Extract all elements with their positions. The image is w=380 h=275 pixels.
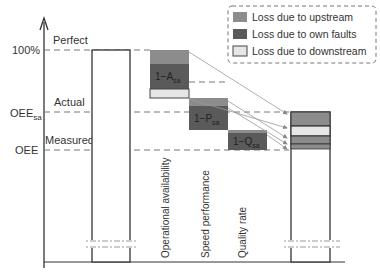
perfect-bar <box>86 50 136 262</box>
loss-block-availability: 1−Asa <box>150 50 189 98</box>
category-performance: Speed performance <box>200 170 211 258</box>
legend-item-own-faults: Loss due to own faults <box>233 28 356 40</box>
tick-oee-sa: OEEsa <box>10 107 42 122</box>
oee-diagram: 100% OEEsa OEE Perfect Actual Measured 1… <box>0 0 380 275</box>
legend-item-downstream: Loss due to downstream <box>233 45 367 57</box>
y-tick-labels: 100% OEEsa OEE <box>10 44 42 156</box>
region-labels: Perfect Actual Measured <box>45 34 94 146</box>
svg-text:Loss due to own faults: Loss due to own faults <box>252 28 356 40</box>
svg-text:Loss due to upstream: Loss due to upstream <box>252 11 353 23</box>
category-labels: Operational availability Speed performan… <box>160 157 248 258</box>
category-availability: Operational availability <box>160 157 171 258</box>
legend-swatch-upstream <box>233 12 247 22</box>
legend: Loss due to upstream Loss due to own fau… <box>228 6 376 63</box>
category-quality: Quality rate <box>237 206 248 258</box>
tick-100: 100% <box>12 44 40 56</box>
legend-swatch-downstream <box>233 46 247 56</box>
tick-oee: OEE <box>15 144 38 156</box>
label-measured: Measured <box>45 134 94 146</box>
loss-block-quality: 1−Qsa <box>228 130 267 150</box>
legend-item-upstream: Loss due to upstream <box>233 11 353 23</box>
label-perfect: Perfect <box>53 34 88 46</box>
label-actual: Actual <box>54 96 85 108</box>
oee-stacked-bar <box>284 112 340 262</box>
svg-text:Loss due to downstream: Loss due to downstream <box>252 45 367 57</box>
legend-swatch-own <box>233 29 247 39</box>
loss-block-performance: 1−Psa <box>189 98 228 130</box>
